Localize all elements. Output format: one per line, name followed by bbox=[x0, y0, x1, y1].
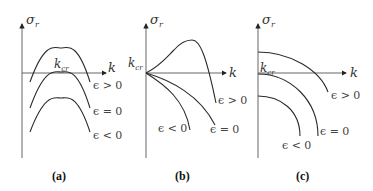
kcr-label: kcr bbox=[128, 56, 143, 72]
curve-eps-zero bbox=[30, 72, 90, 108]
x-axis-label: k bbox=[229, 65, 237, 80]
label-eps-pos: ϵ > 0 bbox=[331, 89, 360, 102]
x-axis-label: k bbox=[350, 65, 358, 80]
panel-a: σr k kcr ϵ > 0 ϵ = 0 ϵ < 0 (a) bbox=[22, 12, 122, 183]
y-axis-label: σr bbox=[26, 12, 40, 29]
label-eps-neg: ϵ < 0 bbox=[158, 122, 187, 135]
caption-b: (b) bbox=[175, 169, 190, 183]
curve-eps-zero bbox=[258, 74, 318, 136]
label-eps-neg: ϵ < 0 bbox=[93, 129, 122, 142]
y-axis-label: σr bbox=[262, 12, 276, 29]
y-axis-label: σr bbox=[150, 12, 164, 29]
caption-a: (a) bbox=[52, 169, 66, 183]
curve-eps-pos bbox=[146, 40, 216, 103]
kcr-label: kcr bbox=[54, 57, 69, 73]
label-eps-zero: ϵ = 0 bbox=[320, 125, 349, 138]
panel-c: σr k kcr ϵ > 0 ϵ = 0 ϵ < 0 (c) bbox=[258, 12, 360, 183]
curve-eps-zero bbox=[146, 73, 215, 125]
label-eps-zero: ϵ = 0 bbox=[93, 105, 122, 118]
panel-b: σr k kcr ϵ > 0 ϵ = 0 ϵ < 0 (b) bbox=[128, 12, 247, 183]
dispersion-diagram: σr k kcr ϵ > 0 ϵ = 0 ϵ < 0 (a) σr k kcr … bbox=[0, 0, 373, 191]
label-eps-neg: ϵ < 0 bbox=[282, 139, 311, 152]
caption-c: (c) bbox=[296, 169, 309, 183]
curve-eps-neg bbox=[258, 96, 300, 136]
label-eps-pos: ϵ > 0 bbox=[93, 79, 122, 92]
x-axis-label: k bbox=[108, 60, 116, 75]
label-eps-pos: ϵ > 0 bbox=[218, 94, 247, 107]
label-eps-zero: ϵ = 0 bbox=[210, 123, 239, 136]
curve-eps-neg bbox=[30, 98, 90, 132]
